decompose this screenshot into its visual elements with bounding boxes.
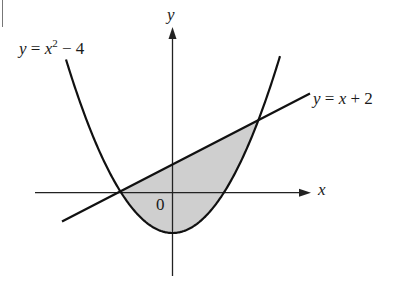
graph-figure: y = x2 − 4 y = x + 2 x y 0 [0,0,405,284]
origin-label: 0 [156,196,165,213]
x-axis-label: x [318,181,326,198]
parabola-eq-sign: = [27,39,45,58]
y-axis-arrow-icon [169,27,177,39]
parabola-equation-label: y = x2 − 4 [19,40,84,57]
line-equation-label: y = x + 2 [313,90,373,107]
left-border-artifact [2,0,3,27]
line-eq-sign: = [321,89,339,108]
line-constant: + 2 [346,89,373,108]
shaded-region [121,121,257,233]
y-axis-label: y [167,6,175,23]
parabola-lhs: y [19,39,27,58]
x-axis-arrow-icon [299,189,311,197]
parabola-constant: − 4 [58,39,85,58]
line-lhs: y [313,89,321,108]
